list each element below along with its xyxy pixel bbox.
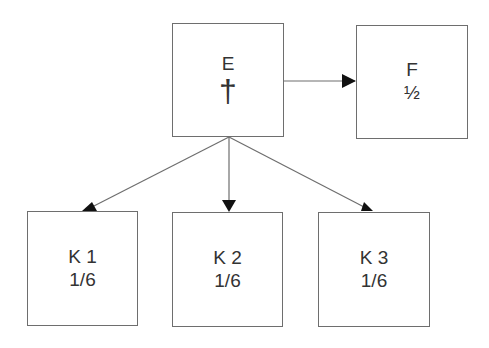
node-k3-share: 1/6 [361,269,387,293]
node-f: F ½ [356,25,468,139]
node-k2-share: 1/6 [214,269,240,293]
node-e-label: E [222,53,235,75]
node-k1-label: K 1 [68,246,97,268]
node-k2-label: K 2 [213,247,242,269]
edge-e-to-k1 [90,137,229,208]
node-k3-label: K 3 [360,247,389,269]
arrowhead-f-icon [342,74,356,88]
arrowhead-k1-icon [82,202,97,211]
node-f-label: F [406,59,418,81]
node-k1-share: 1/6 [69,268,95,292]
arrowhead-k2-icon [222,200,236,212]
arrowhead-k3-icon [361,202,373,211]
edge-e-to-k3 [229,137,366,208]
node-k3: K 3 1/6 [318,212,430,327]
dagger-icon: † [219,75,237,107]
node-e: E † [172,23,284,137]
node-k1: K 1 1/6 [27,211,138,326]
node-f-share: ½ [404,81,420,105]
node-k2: K 2 1/6 [172,212,283,327]
